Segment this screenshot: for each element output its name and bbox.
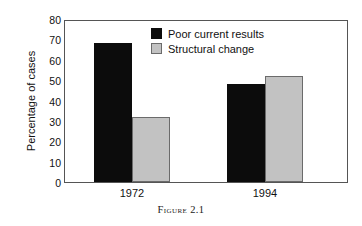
y-tick-label-60: 60: [17, 55, 61, 67]
bar-1994-structural-change[interactable]: [265, 76, 303, 182]
legend: Poor current results Structural change: [151, 27, 264, 57]
figure-container: Percentage of cases 0 10 20 30 40 50 60 …: [0, 0, 362, 226]
x-tick-label-1972: 1972: [92, 187, 172, 199]
legend-label-structural-change: Structural change: [168, 43, 254, 55]
y-tick-label-70: 70: [17, 34, 61, 46]
y-tick-label-40: 40: [17, 96, 61, 108]
y-tick-label-50: 50: [17, 75, 61, 87]
y-tick-label-80: 80: [17, 14, 61, 26]
y-tick-label-10: 10: [17, 157, 61, 169]
x-tick-label-1994: 1994: [225, 187, 305, 199]
legend-item-structural-change[interactable]: Structural change: [151, 42, 264, 55]
bar-1994-poor-current-results[interactable]: [227, 84, 265, 182]
gray-square-swatch-icon: [151, 43, 162, 54]
y-tick-label-20: 20: [17, 136, 61, 148]
black-square-swatch-icon: [151, 28, 162, 39]
figure-caption: Figure 2.1: [0, 204, 362, 215]
bar-1972-poor-current-results[interactable]: [94, 43, 132, 182]
y-tick-label-30: 30: [17, 116, 61, 128]
bar-1972-structural-change[interactable]: [132, 117, 170, 182]
legend-item-poor-current-results[interactable]: Poor current results: [151, 27, 264, 40]
y-tick-label-0: 0: [17, 177, 61, 189]
legend-label-poor-current-results: Poor current results: [168, 28, 264, 40]
